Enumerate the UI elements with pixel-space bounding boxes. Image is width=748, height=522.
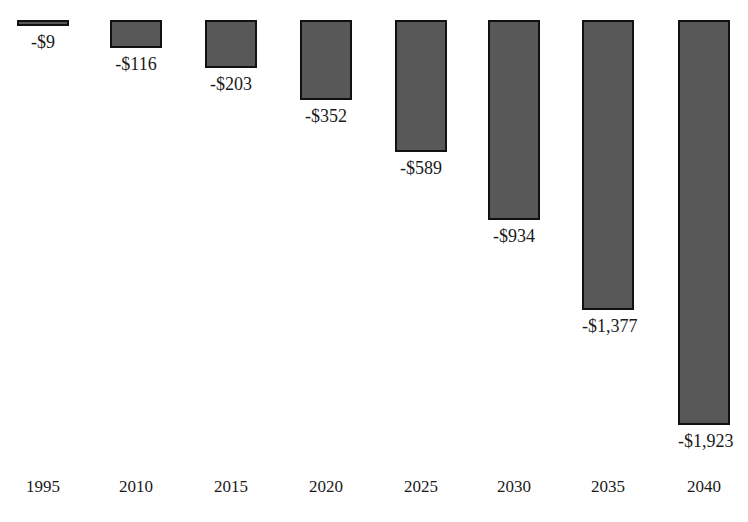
bar-column: -$9 — [17, 20, 69, 53]
axis-tick-label: 2015 — [205, 476, 257, 498]
bar-column: -$1,923 — [678, 20, 730, 452]
bar-value-label: -$203 — [205, 73, 257, 95]
plot-area: -$9-$116-$203-$352-$589-$934-$1,377-$1,9… — [0, 0, 748, 470]
bar-column: -$1,377 — [582, 20, 634, 337]
axis-tick-label: 2035 — [582, 476, 634, 498]
bar-column: -$352 — [300, 20, 352, 127]
bar-value-label: -$589 — [395, 157, 447, 179]
bar[interactable] — [110, 20, 162, 48]
bar-value-label: -$1,923 — [678, 430, 730, 452]
bar[interactable] — [17, 20, 69, 26]
axis-tick-label: 2020 — [300, 476, 352, 498]
bar-column: -$203 — [205, 20, 257, 95]
bar-value-label: -$934 — [488, 225, 540, 247]
bar[interactable] — [488, 20, 540, 220]
bar-value-label: -$352 — [300, 105, 352, 127]
bar-column: -$934 — [488, 20, 540, 247]
bar[interactable] — [205, 20, 257, 68]
bar-column: -$589 — [395, 20, 447, 179]
axis-tick-label: 2040 — [678, 476, 730, 498]
bar[interactable] — [678, 20, 730, 425]
axis-tick-label: 2025 — [395, 476, 447, 498]
axis-tick-label: 1995 — [17, 476, 69, 498]
bar-value-label: -$116 — [110, 53, 162, 75]
bar[interactable] — [582, 20, 634, 310]
bar-chart: -$9-$116-$203-$352-$589-$934-$1,377-$1,9… — [0, 0, 748, 522]
bar[interactable] — [300, 20, 352, 100]
bar-value-label: -$1,377 — [582, 315, 634, 337]
bar[interactable] — [395, 20, 447, 152]
bar-column: -$116 — [110, 20, 162, 75]
axis-tick-label: 2010 — [110, 476, 162, 498]
bar-value-label: -$9 — [17, 31, 69, 53]
axis-tick-label: 2030 — [488, 476, 540, 498]
x-axis-tick-labels: 19952010201520202025203020352040 — [0, 470, 748, 522]
